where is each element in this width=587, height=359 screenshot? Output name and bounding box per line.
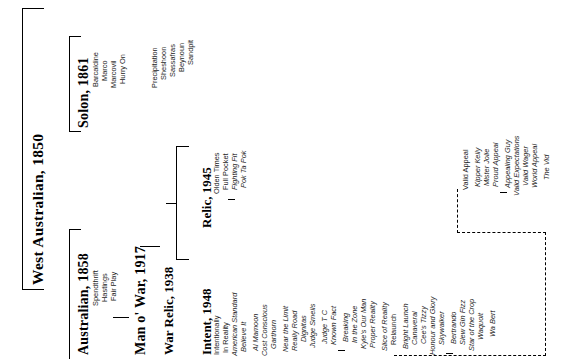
offspring-skywalker: Skywalker bbox=[438, 311, 445, 345]
offspring-slice-of-reality: Slice of Reality bbox=[381, 302, 388, 351]
offspring-full-pocket: Full Pocket bbox=[222, 153, 229, 190]
offspring-in-reality: In Reality bbox=[222, 322, 229, 353]
offspring-marco: Marco bbox=[101, 60, 108, 81]
offspring-intentionally: Intentionally bbox=[213, 316, 220, 355]
offspring-beynoun: Beynoun bbox=[178, 43, 185, 72]
node-war-relic-1938[interactable]: War Relic, 1938 bbox=[162, 267, 175, 355]
offspring-breaking: Breaking bbox=[342, 313, 349, 342]
offspring-valid-expectations: Valid Expectations bbox=[513, 135, 520, 196]
offspring-judge-smells: Judge Smells bbox=[309, 304, 316, 348]
offspring-in-the-zone: In the Zone bbox=[351, 306, 358, 343]
connector-relic-sub bbox=[228, 199, 235, 200]
offspring-near-the-limit: Near the Limit bbox=[282, 306, 289, 352]
offspring-appealing-guy: Appealing Guy bbox=[504, 140, 511, 188]
offspring-wa-bert: Wa Bert bbox=[489, 310, 496, 337]
offspring-bright-launch: Bright Launch bbox=[402, 303, 409, 349]
connector-breaking-sub bbox=[338, 350, 345, 351]
offspring-hurry-on: Hurry On bbox=[119, 54, 126, 84]
offspring-kipper-kelly: Kipper Kelly bbox=[474, 148, 481, 187]
bracket-solon-bottom bbox=[69, 131, 81, 132]
bracket-g1-top bbox=[22, 8, 44, 9]
offspring-barcaldine: Barcaldine bbox=[92, 52, 99, 87]
offspring-valid-appeal: Valid Appeal bbox=[462, 149, 469, 190]
offspring-olden-times: Olden Times bbox=[213, 153, 220, 195]
offspring-american-standard: American Standard bbox=[231, 293, 238, 356]
offspring-canaveral: Canaveral bbox=[411, 311, 418, 345]
offspring-known-fact: Known Fact bbox=[330, 306, 337, 345]
bracket-g5-stem bbox=[166, 203, 177, 204]
pedigree-diagram: West Australian, 1850 Solon, 1861 Austra… bbox=[0, 0, 587, 359]
offspring-pok-ta-pok: Pok Ta Pok bbox=[240, 150, 247, 188]
bracket-australian-top bbox=[69, 229, 81, 230]
offspring-valid-wager: Valid Wager bbox=[522, 146, 529, 186]
offspring-proper-reality: Proper Reality bbox=[369, 301, 376, 348]
offspring-dignitas: Dignitas bbox=[300, 315, 307, 342]
bracket-solon-vertical bbox=[69, 36, 70, 132]
bracket-g1-bottom bbox=[22, 289, 44, 290]
offspring-cees-tizzy: Cee's Tizzy bbox=[420, 306, 427, 344]
bracket-g5-top bbox=[176, 146, 189, 147]
offspring-slew-gin-fizz: Slew Gin Fizz bbox=[459, 300, 466, 345]
connector-appealing-guy-sub bbox=[500, 192, 507, 193]
offspring-cost-conscious: Cost Conscious bbox=[261, 304, 268, 356]
offspring-marcovil: Marcovil bbox=[110, 60, 117, 88]
connector-manowar-warrelic bbox=[140, 246, 160, 247]
offspring-waquoit: Waquoit bbox=[477, 313, 484, 340]
dashed-link-top bbox=[457, 232, 546, 233]
bracket-solon-top bbox=[69, 36, 81, 37]
node-man-o-war-1917[interactable]: Man o' War, 1917 bbox=[134, 246, 148, 355]
offspring-judge-tc: Judge T C bbox=[321, 310, 328, 344]
offspring-honour-and-glory: Honour and Glory bbox=[429, 297, 436, 355]
offspring-kyles-our-man: Kyle's Our Man bbox=[360, 299, 367, 349]
node-australian-1858[interactable]: Australian, 1858 bbox=[77, 253, 91, 355]
dashed-link-bottom bbox=[394, 355, 546, 356]
node-west-australian-1850[interactable]: West Australian, 1850 bbox=[30, 134, 46, 285]
offspring-mister-jolie: Mister Jolie bbox=[483, 149, 490, 186]
offspring-relaunch: Relaunch bbox=[390, 314, 397, 345]
offspring-fighting-fit: Fighting Fit bbox=[231, 153, 238, 190]
offspring-precipitation: Precipitation bbox=[151, 47, 158, 88]
offspring-sandpit: Sandpit bbox=[187, 40, 194, 65]
connector-fairplay-manowar bbox=[113, 317, 129, 318]
offspring-star-of-the-crop: Star of the Crop bbox=[468, 299, 475, 351]
bracket-australian-vertical bbox=[69, 229, 70, 359]
dashed-link-right bbox=[545, 232, 546, 356]
bracket-g1-vertical bbox=[22, 8, 23, 290]
bracket-g5-bottom bbox=[176, 259, 189, 260]
offspring-fair-play: Fair Play bbox=[110, 272, 117, 301]
offspring-believe-it: Believe It bbox=[240, 322, 247, 352]
offspring-world-appeal: World Appeal bbox=[531, 144, 538, 188]
offspring-spendthrift: Spendthrift bbox=[92, 270, 99, 306]
node-solon-1861[interactable]: Solon, 1861 bbox=[77, 57, 91, 128]
offspring-sassafras: Sassafras bbox=[169, 44, 176, 77]
offspring-bertrando: Bertrando bbox=[450, 312, 457, 344]
offspring-sheshoon: Sheshoon bbox=[160, 47, 167, 80]
offspring-proud-appeal: Proud Appeal bbox=[492, 142, 499, 187]
offspring-really-road: Really Road bbox=[291, 311, 298, 351]
offspring-hastings: Hastings bbox=[101, 273, 108, 302]
offspring-the-vid: The Vid bbox=[543, 155, 550, 180]
dashed-link-riser bbox=[457, 189, 458, 233]
offspring-garthorn: Garthorn bbox=[270, 320, 277, 349]
offspring-al-mamoon: Al Mamoon bbox=[252, 314, 259, 351]
